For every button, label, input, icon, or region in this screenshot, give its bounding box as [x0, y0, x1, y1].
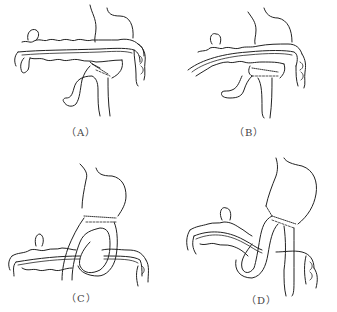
- colon-lower: [200, 243, 248, 256]
- colon-right: [137, 260, 149, 286]
- jejunum-inner: [108, 78, 110, 116]
- colon-left: [187, 230, 196, 254]
- stomach-remnant: [90, 60, 123, 78]
- appendix: [28, 29, 39, 40]
- appendix: [210, 34, 220, 44]
- appendix: [35, 234, 43, 246]
- anastomosis-stitches: [252, 68, 278, 72]
- colon-band-inner: [18, 259, 138, 265]
- panel-a: （A）: [0, 0, 168, 156]
- colon-right-haustra: [140, 56, 143, 74]
- panel-d-label: （D）: [246, 292, 277, 307]
- panel-c: （C）: [0, 156, 168, 312]
- anastomosis-stitches: [84, 216, 116, 218]
- stomach: [266, 158, 316, 224]
- colon-lower: [196, 61, 284, 76]
- colon-lower: [30, 58, 122, 62]
- jejunum-loop: [236, 216, 294, 296]
- colon-right: [305, 256, 318, 288]
- panel-c-label: （C）: [66, 290, 97, 305]
- stomach: [248, 8, 292, 44]
- panel-b: （B）: [168, 0, 337, 156]
- colon-upper: [12, 248, 146, 260]
- anastomosis-stitches-upper: [266, 206, 272, 216]
- stomach: [90, 5, 133, 42]
- colon-band-inner: [22, 51, 132, 55]
- panel-b-label: （B）: [234, 124, 264, 139]
- panel-c-drawing: [0, 156, 168, 312]
- stomach: [80, 164, 126, 216]
- colon-right-haustra: [300, 62, 303, 80]
- jejunum: [63, 66, 100, 116]
- colon-upper: [198, 44, 302, 54]
- panel-d: （D）: [168, 156, 337, 312]
- colon-lower: [22, 268, 72, 271]
- colon-right-haustra: [310, 262, 312, 280]
- panel-d-drawing: [168, 156, 337, 312]
- appendix: [220, 208, 230, 220]
- colon-band: [194, 232, 314, 268]
- colon-right: [134, 44, 145, 86]
- panel-a-label: （A）: [66, 124, 96, 139]
- jejunum: [221, 76, 272, 118]
- anastomosis-stitches: [92, 64, 108, 74]
- colon-left: [9, 256, 16, 276]
- anastomosis-stitches: [272, 216, 296, 224]
